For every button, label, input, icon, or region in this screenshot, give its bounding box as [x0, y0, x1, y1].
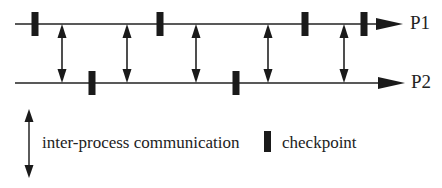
checkpoint-marker-icon: [32, 12, 39, 36]
legend-checkpoint-label: checkpoint: [282, 133, 357, 153]
process-label-p2: P2: [411, 71, 431, 93]
checkpoint-marker-icon: [89, 71, 96, 95]
checkpoint-marker-icon: [302, 12, 309, 36]
timeline-arrowhead-icon: [376, 18, 403, 30]
communication-double-arrow-icon: [123, 24, 132, 83]
process-p2-timeline: [15, 77, 405, 89]
legend-communication-label: inter-process communication: [42, 133, 239, 153]
legend-checkpoint-icon: [264, 131, 271, 152]
legend-communication-arrow-icon: [25, 109, 34, 178]
communication-double-arrow-icon: [58, 24, 67, 83]
checkpoint-marker-icon: [157, 12, 164, 36]
process-label-p1: P1: [410, 12, 430, 34]
timeline-arrowhead-icon: [378, 77, 405, 89]
checkpoint-diagram: [0, 0, 442, 188]
communication-double-arrow-icon: [340, 24, 349, 83]
checkpoint-marker-icon: [233, 71, 240, 95]
communication-double-arrow-icon: [264, 24, 273, 83]
communication-double-arrow-icon: [192, 24, 201, 83]
checkpoint-marker-icon: [361, 12, 368, 36]
